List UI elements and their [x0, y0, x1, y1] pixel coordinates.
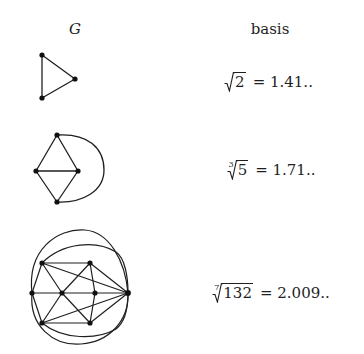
equals-value-2: = 1.71..	[255, 160, 315, 180]
column-header-basis: basis	[190, 20, 350, 38]
formula-row-1: 2 = 1.41..	[180, 72, 360, 92]
formula-row-2: 3 5 = 1.71..	[180, 160, 360, 180]
triangle-graph	[10, 40, 150, 115]
radical-sign-icon-1	[224, 72, 235, 92]
radical-expression-2: 3 5	[225, 160, 249, 180]
equals-value-1: = 1.41..	[253, 72, 313, 92]
radicand-1: 2	[234, 72, 246, 91]
figure-container: G basis 2 = 1.41..	[0, 0, 364, 354]
formula-row-3: 7 132 = 2.009..	[180, 283, 360, 303]
radical-expression-3: 7 132	[210, 283, 253, 303]
radicand-3: 132	[222, 283, 253, 302]
rhombus-graph	[10, 120, 150, 220]
radicand-2: 5	[237, 160, 249, 179]
column-header-graph: G	[0, 20, 150, 38]
radical-expression-1: 2	[227, 72, 246, 92]
equals-value-3: = 2.009..	[260, 283, 330, 303]
radical-index-3: 7	[214, 284, 219, 292]
radical-index-2: 3	[229, 161, 234, 169]
hexagonal-graph	[5, 222, 155, 352]
